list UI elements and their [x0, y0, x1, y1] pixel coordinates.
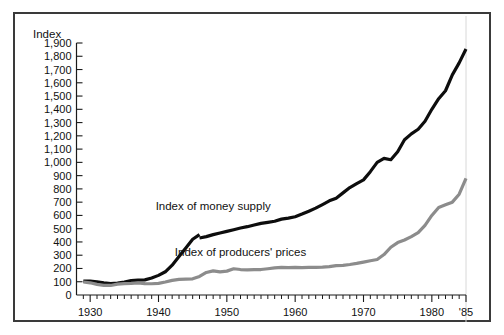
- x-tick-label: 1930: [78, 306, 102, 318]
- y-axis-tick-labels: 01002003004005006007008009001,0001,1001,…: [44, 37, 72, 301]
- x-tick-label: 1980: [420, 306, 444, 318]
- chart-figure: 01002003004005006007008009001,0001,1001,…: [0, 0, 504, 335]
- x-tick-label: 1960: [283, 306, 307, 318]
- x-tick-label: '85: [459, 306, 473, 318]
- y-tick-label: 1,500: [44, 90, 72, 102]
- x-axis-tick-labels: 193019401950196019701980'85: [78, 306, 473, 318]
- y-tick-label: 1,100: [44, 143, 72, 155]
- y-tick-label: 1,600: [44, 77, 72, 89]
- y-tick-label: 900: [53, 170, 71, 182]
- y-tick-label: 700: [53, 196, 71, 208]
- series-line: [83, 178, 466, 285]
- y-tick-label: 500: [53, 223, 71, 235]
- x-tick-label: 1950: [215, 306, 239, 318]
- y-tick-label: 300: [53, 249, 71, 261]
- series-label: Index of money supply: [156, 200, 271, 212]
- line-chart: 01002003004005006007008009001,0001,1001,…: [0, 0, 504, 335]
- y-tick-label: 1,000: [44, 156, 72, 168]
- y-axis: [77, 43, 83, 295]
- x-tick-label: 1940: [146, 306, 170, 318]
- series-line: [83, 235, 199, 284]
- y-tick-label: 0: [65, 289, 71, 301]
- y-tick-label: 800: [53, 183, 71, 195]
- y-tick-label: 200: [53, 262, 71, 274]
- x-tick-label: 1970: [351, 306, 375, 318]
- y-tick-label: 100: [53, 276, 71, 288]
- y-tick-label: 1,700: [44, 64, 72, 76]
- y-tick-label: 1,300: [44, 117, 72, 129]
- y-tick-label: 1,800: [44, 50, 72, 62]
- y-tick-label: 1,200: [44, 130, 72, 142]
- y-tick-label: 1,400: [44, 103, 72, 115]
- y-tick-label: 400: [53, 236, 71, 248]
- y-tick-label: 600: [53, 209, 71, 221]
- series-label: Index of producers' prices: [175, 246, 307, 258]
- x-axis: [77, 295, 467, 302]
- y-axis-title: Index: [33, 28, 61, 40]
